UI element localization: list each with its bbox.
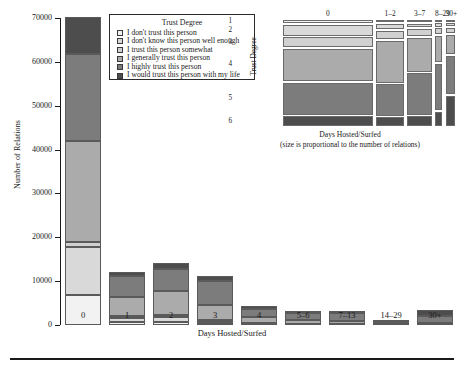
mosaic-cell (376, 84, 404, 115)
mosaic-row-label: 3 (220, 39, 232, 46)
mosaic-cell (446, 20, 455, 22)
mosaic-cell (407, 20, 432, 22)
figure-root: Number of Relations 01000020000300004000… (0, 0, 464, 376)
mosaic-plot-area: 01–23–78–2930+ (283, 20, 455, 126)
legend-swatch-icon (117, 30, 123, 36)
mosaic-cell (446, 96, 455, 126)
legend: Trust Degree I don't trust this personI … (109, 14, 255, 80)
x-axis-tick-label: 7–13 (325, 310, 369, 320)
legend-swatch-icon (117, 64, 123, 70)
legend-swatch-icon (117, 73, 123, 79)
mosaic-cell (435, 112, 442, 126)
bar-segment (65, 242, 100, 246)
mosaic-cell (283, 83, 373, 115)
mosaic-column (435, 20, 442, 126)
mosaic-cell (446, 28, 455, 33)
x-axis-tick-label: 3 (193, 310, 237, 320)
legend-entry-label: I would trust this person with my life (127, 71, 240, 80)
y-axis-tick-label: 70000 (4, 14, 60, 22)
y-axis-tick-label: 50000 (4, 102, 60, 110)
mosaic-cell (435, 23, 442, 26)
mosaic-cell (376, 41, 404, 83)
bar-segment (109, 276, 144, 296)
mosaic-column (407, 20, 432, 126)
mosaic-cell (283, 49, 373, 81)
mosaic-column (446, 20, 455, 126)
mosaic-cell (283, 25, 373, 36)
mosaic-cell (435, 36, 442, 62)
legend-title: Trust Degree (110, 18, 254, 27)
y-axis-tick-label: 40000 (4, 146, 60, 154)
mosaic-cell (446, 56, 455, 94)
bar-segment (285, 320, 320, 324)
x-axis-tick-label: 30+ (413, 310, 457, 320)
bar-segment (373, 320, 408, 322)
mosaic-plot: Trust Degree 01–23–78–2930+ Days Hosted/… (236, 6, 464, 154)
y-axis-tick-label: 60000 (4, 58, 60, 66)
legend-entries: I don't trust this personI don't know th… (110, 29, 254, 81)
mosaic-cell (435, 64, 442, 110)
bar-segment (109, 272, 144, 276)
bar-segment (153, 263, 188, 269)
mosaic-y-axis-title: Trust Degree (249, 21, 258, 93)
mosaic-column-label: 3–7 (407, 9, 432, 18)
bar (373, 322, 408, 325)
mosaic-cell (407, 116, 432, 126)
mosaic-cell (407, 73, 432, 114)
bar-segment (109, 322, 144, 325)
mosaic-row-label: 5 (220, 95, 232, 102)
x-axis-tick-label: 1 (105, 310, 149, 320)
bar-segment (329, 321, 364, 324)
bar-segment (373, 322, 408, 324)
mosaic-column (376, 20, 404, 126)
bar-segment (153, 269, 188, 291)
mosaic-row-label: 2 (220, 27, 232, 34)
x-axis-tick-label: 4 (237, 310, 281, 320)
mosaic-cell (376, 31, 404, 39)
bar-segment (197, 281, 232, 306)
bar-segment (197, 276, 232, 281)
mosaic-row-label: 1 (220, 18, 232, 25)
legend-swatch-icon (117, 56, 123, 62)
mosaic-column (283, 20, 373, 126)
mosaic-row-label: 6 (220, 118, 232, 125)
mosaic-cell (446, 35, 455, 55)
mosaic-cell (376, 117, 404, 126)
y-axis-tick-label: 20000 (4, 233, 60, 241)
legend-swatch-icon (117, 38, 123, 44)
legend-swatch-icon (117, 47, 123, 53)
bar-segment (65, 17, 100, 53)
x-axis-tick-label: 2 (149, 310, 193, 320)
bar-segment (65, 141, 100, 242)
x-axis-tick-label: 14–29 (369, 310, 413, 320)
mosaic-cell (376, 24, 404, 29)
mosaic-column-label: 0 (283, 9, 373, 18)
mosaic-column-label: 8–29 (435, 9, 442, 18)
mosaic-column-label: 30+ (446, 9, 455, 18)
mosaic-x-axis-note: (size is proportional to the number of r… (236, 140, 464, 149)
mosaic-x-axis-title: Days Hosted/Surfed (236, 130, 464, 139)
mosaic-cell (283, 20, 373, 23)
x-axis-tick-label: 5–6 (281, 310, 325, 320)
bar-segment (241, 306, 276, 308)
bottom-rule (10, 358, 454, 360)
mosaic-cell (435, 20, 442, 22)
bar (65, 17, 100, 325)
y-axis-tick-label: 30000 (4, 189, 60, 197)
mosaic-cell (407, 29, 432, 36)
x-axis-tick-label: 0 (61, 310, 105, 320)
bar-segment (197, 321, 232, 323)
y-axis-tick-label: 10000 (4, 277, 60, 285)
mosaic-row-label: 4 (220, 61, 232, 68)
bar-segment (153, 322, 188, 325)
mosaic-cell (435, 28, 442, 34)
bar-segment (65, 247, 100, 295)
mosaic-cell (407, 38, 432, 72)
mosaic-cell (283, 37, 373, 47)
mosaic-cell (446, 23, 455, 26)
bar-segment (65, 54, 100, 142)
mosaic-column-label: 1–2 (376, 9, 404, 18)
x-axis-title: Days Hosted/Surfed (0, 328, 464, 338)
mosaic-cell (283, 116, 373, 126)
mosaic-cell (376, 20, 404, 22)
